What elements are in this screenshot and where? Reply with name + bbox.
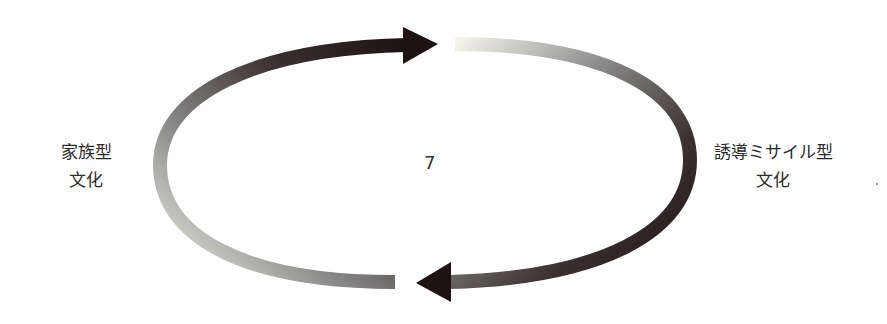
center-number: 7 — [424, 152, 435, 173]
right-arc-arrow-shaft — [450, 44, 690, 282]
family-culture-label: 家族型 文化 — [48, 138, 124, 194]
guided-missile-culture-line1: 誘導ミサイル型 — [698, 138, 848, 166]
stray-mark — [876, 183, 878, 185]
cycle-diagram: 家族型 文化 7 誘導ミサイル型 文化 — [0, 0, 887, 324]
guided-missile-culture-line2: 文化 — [698, 166, 848, 194]
bottom-arrowhead-icon — [416, 262, 451, 302]
family-culture-line1: 家族型 — [48, 138, 124, 166]
top-arrowhead-icon — [403, 27, 438, 64]
guided-missile-culture-label: 誘導ミサイル型 文化 — [698, 138, 848, 194]
left-arc-arrow-shaft — [160, 45, 408, 282]
family-culture-line2: 文化 — [48, 166, 124, 194]
